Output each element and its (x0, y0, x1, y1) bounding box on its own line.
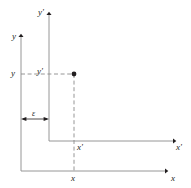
diagram-canvas (0, 0, 191, 188)
epsilon-label: ε (32, 110, 35, 118)
y-axis-tip-label: y (12, 32, 16, 41)
data-point-marker (72, 72, 77, 77)
y-prime-axis-tip-label: y' (38, 8, 44, 17)
epsilon-arrow-right (44, 117, 49, 121)
x-axis-tip-label: x (171, 174, 175, 183)
x-tick-label: x (71, 174, 75, 183)
coordinate-diagram: y y' y y' ε x' x' x x (0, 0, 191, 188)
epsilon-arrow-left (21, 117, 26, 121)
y-prime-tick-label: y' (37, 67, 43, 76)
y-tick-label: y (11, 69, 15, 78)
x-prime-tick-label: x' (77, 143, 83, 152)
x-prime-axis-tip-label: x' (176, 143, 182, 152)
